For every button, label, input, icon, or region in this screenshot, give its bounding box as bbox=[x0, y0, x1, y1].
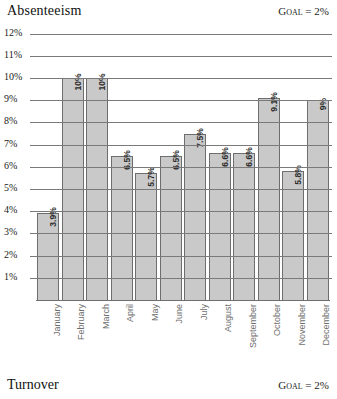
gridline bbox=[36, 256, 330, 257]
page-title: Absenteeism bbox=[7, 3, 82, 19]
x-axis-label-april: April bbox=[125, 304, 135, 322]
y-axis-tick-label: 11% bbox=[4, 49, 34, 60]
y-axis-tick-label: 4% bbox=[4, 204, 34, 215]
goal-badge-top: Goal = 2% bbox=[278, 5, 329, 17]
gridline bbox=[36, 34, 330, 35]
y-axis-tick-mark-right bbox=[325, 34, 332, 35]
x-axis-baseline bbox=[36, 300, 330, 301]
x-axis-label-june: June bbox=[174, 304, 184, 324]
y-axis-tick-mark-right bbox=[325, 211, 332, 212]
x-axis-label-july: July bbox=[199, 304, 209, 320]
bar-may: 5.7% bbox=[135, 173, 157, 300]
y-axis-tick-label: 1% bbox=[4, 271, 34, 282]
y-axis-tick-label: 3% bbox=[4, 226, 34, 237]
bar-value-label: 9.1% bbox=[269, 92, 279, 111]
y-axis-tick-label: 9% bbox=[4, 93, 34, 104]
y-axis-tick-mark-right bbox=[325, 233, 332, 234]
gridline bbox=[36, 56, 330, 57]
bar-value-label: 5.8% bbox=[293, 166, 303, 185]
y-axis-tick-mark-right bbox=[325, 256, 332, 257]
bar-october: 9.1% bbox=[258, 98, 280, 300]
y-axis-tick-mark-right bbox=[325, 56, 332, 57]
gridline bbox=[36, 211, 330, 212]
y-axis-tick-label: 6% bbox=[4, 160, 34, 171]
bar-value-label: 6.6% bbox=[244, 148, 254, 167]
x-axis-label-january: January bbox=[52, 304, 62, 336]
gridline bbox=[36, 167, 330, 168]
gridline bbox=[36, 233, 330, 234]
gridline bbox=[36, 122, 330, 123]
gridline bbox=[36, 278, 330, 279]
bar-value-label: 5.7% bbox=[146, 168, 156, 187]
bar-december: 9% bbox=[307, 100, 329, 300]
y-axis-tick-mark-right bbox=[325, 167, 332, 168]
absenteeism-header: Absenteeism Goal = 2% bbox=[0, 0, 337, 26]
y-axis-tick-label: 5% bbox=[4, 182, 34, 193]
x-axis-label-august: August bbox=[223, 304, 233, 332]
y-axis-tick-mark-right bbox=[325, 100, 332, 101]
bar-value-label: 10% bbox=[97, 73, 107, 90]
y-axis-tick-label: 8% bbox=[4, 115, 34, 126]
bar-november: 5.8% bbox=[282, 171, 304, 300]
turnover-footer: Turnover Goal = 2% bbox=[0, 373, 337, 399]
absenteeism-bar-chart: 3.9%10%10%6.5%5.7%6.5%7.5%6.6%6.6%9.1%5.… bbox=[0, 26, 337, 373]
bar-january: 3.9% bbox=[37, 213, 59, 300]
x-axis-label-march: March bbox=[101, 304, 111, 329]
y-axis-tick-label: 7% bbox=[4, 138, 34, 149]
x-axis-label-may: May bbox=[150, 304, 160, 321]
x-axis-label-october: October bbox=[272, 304, 282, 336]
x-axis-label-september: September bbox=[248, 304, 258, 348]
bar-value-label: 6.6% bbox=[220, 148, 230, 167]
y-axis-tick-mark-right bbox=[325, 78, 332, 79]
gridline bbox=[36, 189, 330, 190]
y-axis-tick-mark-right bbox=[325, 145, 332, 146]
gridline bbox=[36, 100, 330, 101]
y-axis-tick-mark-right bbox=[325, 278, 332, 279]
y-axis-tick-mark-right bbox=[325, 189, 332, 190]
x-axis-label-november: November bbox=[297, 304, 307, 346]
x-axis-label-february: February bbox=[76, 304, 86, 340]
y-axis-tick-label: 12% bbox=[4, 27, 34, 38]
goal-badge-bottom: Goal = 2% bbox=[278, 379, 329, 391]
y-axis-tick-label: 10% bbox=[4, 71, 34, 82]
bar-july: 7.5% bbox=[184, 134, 206, 301]
x-axis-labels: JanuaryFebruaryMarchAprilMayJuneJulyAugu… bbox=[36, 302, 330, 372]
plot-area: 3.9%10%10%6.5%5.7%6.5%7.5%6.6%6.6%9.1%5.… bbox=[36, 26, 330, 300]
gridline bbox=[36, 145, 330, 146]
bar-value-label: 10% bbox=[73, 73, 83, 90]
y-axis-tick-mark-right bbox=[325, 122, 332, 123]
gridline bbox=[36, 78, 330, 79]
y-axis-tick-label: 2% bbox=[4, 249, 34, 260]
footer-title: Turnover bbox=[7, 377, 59, 393]
x-axis-label-december: December bbox=[321, 304, 331, 346]
